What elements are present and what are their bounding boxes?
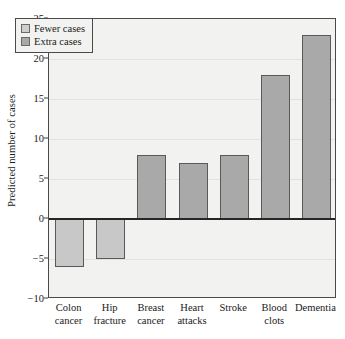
bar	[137, 155, 166, 219]
y-axis-tick-label: 10	[34, 133, 45, 144]
legend-swatch-icon-extra-cases	[21, 37, 30, 46]
y-axis-tick-label: −5	[33, 253, 44, 264]
bar	[302, 35, 331, 219]
x-axis-tick-label: Bloodclots	[261, 302, 287, 327]
bar	[96, 219, 125, 259]
legend-label-fewer-cases: Fewer cases	[34, 22, 85, 35]
legend-swatch-icon-fewer-cases	[21, 24, 30, 33]
legend-item-fewer-cases: Fewer cases	[21, 22, 85, 35]
y-axis-title-text: Predicted number of cases	[6, 93, 17, 206]
x-axis-tick-label: Breastcancer	[137, 302, 164, 327]
y-axis-tick-label: 15	[34, 93, 45, 104]
x-axis-tick-label: Coloncancer	[55, 302, 82, 327]
zero-line	[49, 218, 335, 220]
gridline	[49, 59, 335, 60]
bar	[179, 163, 208, 219]
x-axis-tick-label: Heartattacks	[177, 302, 206, 327]
bar-chart-figure: Predicted number of cases 2520151050−5−1…	[0, 0, 345, 339]
x-axis-tick-labels: ColoncancerHipfractureBreastcancerHearta…	[48, 300, 345, 339]
y-axis-tick-label: 20	[34, 53, 45, 64]
chart-legend: Fewer cases Extra cases	[15, 18, 93, 53]
bar	[55, 219, 84, 267]
x-axis-tick-label: Dementia	[295, 302, 336, 315]
bar	[261, 75, 290, 219]
gridline	[49, 139, 335, 140]
legend-item-extra-cases: Extra cases	[21, 35, 85, 48]
bar	[220, 155, 249, 219]
gridline	[49, 259, 335, 260]
x-axis-tick-label: Stroke	[219, 302, 246, 315]
y-axis-tick-label: −10	[28, 293, 44, 304]
x-axis-tick-label: Hipfracture	[93, 302, 126, 327]
plot-area	[48, 18, 336, 298]
gridline	[49, 99, 335, 100]
legend-label-extra-cases: Extra cases	[34, 35, 82, 48]
